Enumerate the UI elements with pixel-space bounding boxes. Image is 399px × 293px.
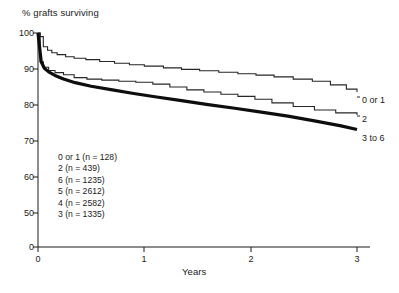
series-line-0-or-1 bbox=[38, 33, 357, 92]
axes bbox=[33, 33, 370, 252]
plot-area bbox=[0, 0, 399, 293]
chart-figure: % grafts surviving Years 100 90 80 70 60… bbox=[0, 0, 399, 293]
series-line-3-to-6 bbox=[38, 33, 357, 129]
y-axis-ticks bbox=[33, 33, 38, 247]
x-axis-ticks bbox=[38, 247, 357, 252]
data-series-group bbox=[38, 33, 357, 129]
